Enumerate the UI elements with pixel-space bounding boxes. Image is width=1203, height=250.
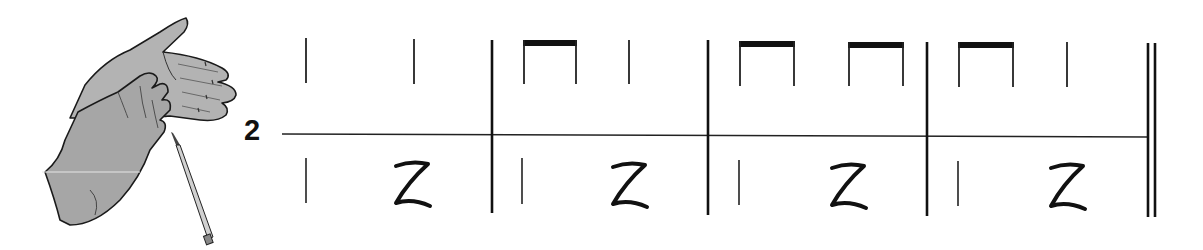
final-double-barline [1148,43,1155,217]
measure-4 [958,42,1085,209]
quarter-rest-icon [832,164,866,208]
eighth-pair-icon [958,42,1014,87]
rhythm-score [0,0,1203,250]
measure-1 [306,38,430,206]
staff-line [282,134,1148,137]
measure-3 [739,41,904,208]
measure-2 [522,40,647,207]
quarter-rest-icon [396,162,430,206]
quarter-rest-icon [613,163,647,207]
eighth-pair-icon [739,41,795,86]
eighth-pair-icon [848,42,904,86]
quarter-rest-icon [1051,164,1085,209]
eighth-pair-icon [523,40,577,84]
